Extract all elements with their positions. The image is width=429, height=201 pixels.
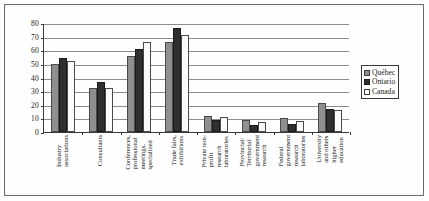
- x-axis-label-line: specialized: [146, 135, 153, 170]
- y-tick-label: 30: [13, 88, 39, 96]
- x-label-cell: Conferences,professionalmeetings,special…: [120, 135, 158, 201]
- y-tick-label: 0: [13, 129, 39, 137]
- y-tick-label: 10: [13, 116, 39, 124]
- x-label-cell: Provincial/Territorialgovernmentresearch: [234, 135, 272, 201]
- bar-group: [197, 24, 235, 132]
- bar-group: [82, 24, 120, 132]
- legend-label: Québec: [372, 68, 395, 77]
- x-axis-label-line: laboratories: [223, 135, 230, 167]
- y-tick-label: 70: [13, 34, 39, 42]
- bar-group: [120, 24, 158, 132]
- legend-swatch-icon: [364, 70, 370, 76]
- x-axis-label: Conferences,professionalmeetings,special…: [124, 135, 154, 170]
- bar: [250, 125, 258, 132]
- x-axis-label-line: meetings,: [139, 135, 146, 170]
- x-axis-label: Provincial/Territorialgovernmentresearch: [239, 135, 269, 167]
- bar: [97, 82, 105, 132]
- bar: [127, 56, 135, 132]
- x-label-cell: Trade fairs,exhibitions: [158, 135, 196, 201]
- chart-screenshot: 01020304050607080 IndustryassociationsCo…: [0, 0, 429, 201]
- bar-group: [235, 24, 273, 132]
- x-axis-label-line: Trade fairs,: [169, 135, 176, 165]
- bar: [258, 122, 266, 132]
- x-axis-label: Federalgovernmentresearchlaboratories: [277, 135, 307, 167]
- bar: [165, 42, 173, 132]
- y-tick-mark-0: [41, 133, 44, 134]
- x-axis-label: Universityand othershighereducation: [315, 135, 345, 163]
- y-tick-label: 80: [13, 20, 39, 28]
- bar: [51, 64, 59, 132]
- legend-item[interactable]: Québec: [364, 68, 395, 77]
- x-axis-label-line: profit: [208, 135, 215, 167]
- y-tick-label: 60: [13, 48, 39, 56]
- bar: [220, 117, 228, 132]
- chart-legend: QuébecOntarioCanada: [361, 65, 399, 99]
- bar-group: [158, 24, 196, 132]
- bar: [89, 88, 97, 132]
- x-axis-label-line: research: [261, 135, 268, 167]
- chart-frame: 01020304050607080 IndustryassociationsCo…: [4, 4, 424, 196]
- x-axis-label-line: education: [337, 135, 344, 163]
- bar: [326, 109, 334, 132]
- bar: [296, 121, 304, 132]
- x-axis-label-line: Conferences,: [124, 135, 131, 170]
- legend-swatch-icon: [364, 89, 370, 95]
- x-label-cell: Private non-profitresearchlaboratories: [196, 135, 234, 201]
- bar: [105, 88, 113, 132]
- x-axis-label-line: Industry: [55, 135, 62, 167]
- bar: [67, 61, 75, 132]
- x-axis-label-line: research: [215, 135, 222, 167]
- x-axis-labels: IndustryassociationsConsultantsConferenc…: [43, 135, 349, 201]
- y-tick-label: 50: [13, 61, 39, 69]
- bar: [181, 35, 189, 132]
- x-axis-label-line: government: [284, 135, 291, 167]
- x-axis-label-line: University: [315, 135, 322, 163]
- legend-label: Canada: [372, 87, 395, 96]
- plot-area: [43, 24, 349, 133]
- bar-groups: [44, 24, 349, 132]
- legend-item[interactable]: Canada: [364, 87, 395, 96]
- y-tick-label: 20: [13, 102, 39, 110]
- legend-item[interactable]: Ontario: [364, 77, 395, 86]
- bar-group: [273, 24, 311, 132]
- legend-label: Ontario: [372, 77, 395, 86]
- x-axis-label: Consultants: [97, 135, 104, 166]
- bar: [242, 120, 250, 132]
- x-label-cell: Industryassociations: [43, 135, 81, 201]
- x-axis-label-line: professional: [131, 135, 138, 170]
- bar: [288, 124, 296, 132]
- bar: [204, 116, 212, 132]
- x-axis-label-line: laboratories: [299, 135, 306, 167]
- x-axis-label-line: exhibitions: [177, 135, 184, 165]
- bar: [59, 58, 67, 132]
- x-axis-label: Private non-profitresearchlaboratories: [200, 135, 230, 167]
- x-label-cell: Consultants: [81, 135, 119, 201]
- y-tick-label: 40: [13, 75, 39, 83]
- x-label-cell: Federalgovernmentresearchlaboratories: [273, 135, 311, 201]
- bar: [135, 49, 143, 132]
- bar-group: [311, 24, 349, 132]
- legend-swatch-icon: [364, 79, 370, 85]
- x-axis-label-line: Private non-: [200, 135, 207, 167]
- bar: [280, 118, 288, 132]
- x-axis-label-line: and others: [322, 135, 329, 163]
- x-axis-label-line: research: [292, 135, 299, 167]
- x-label-cell: Universityand othershighereducation: [311, 135, 349, 201]
- bar: [318, 103, 326, 132]
- bar: [143, 42, 151, 132]
- x-axis-label-line: associations: [62, 135, 69, 167]
- x-axis-label-line: Federal: [277, 135, 284, 167]
- bar: [334, 110, 342, 132]
- x-tick-mark: [350, 132, 351, 135]
- bar: [212, 120, 220, 132]
- x-axis-label-line: higher: [330, 135, 337, 163]
- x-axis-label: Industryassociations: [55, 135, 70, 167]
- bar-group: [44, 24, 82, 132]
- x-axis-label: Trade fairs,exhibitions: [169, 135, 184, 165]
- bar: [173, 28, 181, 132]
- x-axis-label-line: Consultants: [97, 135, 104, 166]
